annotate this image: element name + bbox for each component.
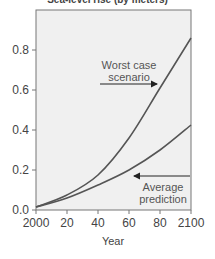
chart-canvas: 0.00.20.40.60.8 2000204060802100 Worst c… bbox=[0, 0, 215, 259]
x-tick-label: 2100 bbox=[178, 216, 205, 230]
y-tick-label: 0.8 bbox=[12, 43, 29, 57]
x-tick-label: 20 bbox=[60, 216, 74, 230]
x-tick-label: 80 bbox=[153, 216, 167, 230]
y-tick-label: 0.0 bbox=[12, 203, 29, 217]
worst-case-annotation: Worst case scenario bbox=[100, 59, 157, 84]
x-tick-label: 60 bbox=[122, 216, 136, 230]
x-tick-label: 2000 bbox=[23, 216, 50, 230]
y-tick-label: 0.4 bbox=[12, 123, 29, 137]
x-axis-label: Year bbox=[102, 235, 125, 247]
worst-case-label-line2: scenario bbox=[108, 71, 150, 83]
worst-case-label-line1: Worst case bbox=[102, 59, 157, 71]
y-axis: 0.00.20.40.60.8 bbox=[12, 43, 36, 217]
x-axis: 2000204060802100 bbox=[23, 210, 205, 230]
x-tick-label: 40 bbox=[91, 216, 105, 230]
average-label-line1: Average bbox=[143, 181, 184, 193]
average-annotation: Average prediction bbox=[134, 176, 190, 205]
average-label-line2: prediction bbox=[139, 193, 187, 205]
plot-area bbox=[36, 10, 191, 210]
y-tick-label: 0.2 bbox=[12, 163, 29, 177]
y-tick-label: 0.6 bbox=[12, 83, 29, 97]
